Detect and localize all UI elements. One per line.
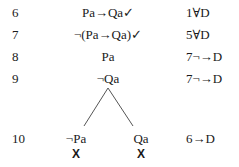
right-branch-formula: Qa [133, 131, 148, 146]
right-closed-branch-mark: X [137, 147, 145, 162]
justification: 6→D [186, 131, 215, 146]
left-branch-formula: ¬Pa [66, 131, 86, 146]
line-number: 10 [12, 131, 25, 146]
left-closed-branch-mark: X [72, 147, 80, 162]
